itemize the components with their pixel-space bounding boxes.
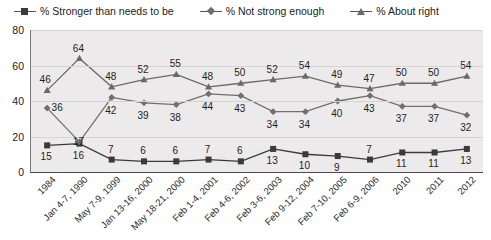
data-point-marker: [302, 108, 309, 115]
x-axis-tick: 2011: [423, 174, 445, 196]
legend-item-about-right: % About right: [350, 6, 438, 17]
y-axis: 020406080: [0, 22, 28, 172]
data-point-marker: [237, 92, 244, 99]
data-point-marker: [463, 112, 470, 119]
data-point-marker: [432, 149, 438, 155]
data-point-marker: [44, 142, 50, 148]
data-point-marker: [270, 146, 276, 152]
data-point-marker: [302, 151, 308, 157]
y-axis-tick: 20: [12, 131, 24, 143]
data-point-marker: [76, 55, 83, 61]
data-point-marker: [173, 71, 180, 77]
data-point-marker: [141, 158, 147, 164]
data-point-marker: [109, 157, 115, 163]
data-point-marker: [173, 101, 180, 108]
data-point-marker: [431, 103, 438, 110]
line-chart: 020406080 1984Jan 4-7, 1990May 7-9, 1999…: [0, 22, 491, 240]
x-axis-tick: 1984: [35, 174, 58, 197]
y-axis-tick: 80: [12, 24, 24, 36]
legend-label-not-strong: % Not strong enough: [226, 6, 325, 17]
data-point-marker: [367, 92, 374, 99]
data-point-marker: [464, 146, 470, 152]
diamond-marker-icon: [200, 6, 222, 17]
x-axis-tick: 2010: [390, 174, 413, 197]
x-axis: 1984Jan 4-7, 1990May 7-9, 1999Jan 13-16,…: [30, 174, 482, 240]
data-point-marker: [367, 157, 373, 163]
y-axis-tick: 40: [12, 95, 24, 107]
triangle-marker-icon: [350, 6, 372, 17]
data-point-marker: [463, 73, 470, 79]
gridline: [31, 30, 483, 31]
data-point-marker: [238, 158, 244, 164]
gridline: [31, 137, 483, 138]
x-axis-tick: 2012: [455, 174, 478, 197]
data-point-marker: [206, 157, 212, 163]
legend-item-not-strong: % Not strong enough: [200, 6, 325, 17]
gridline: [31, 101, 483, 102]
y-axis-tick: 0: [18, 166, 24, 178]
data-point-marker: [270, 108, 277, 115]
plot-area: [30, 30, 483, 173]
y-axis-tick: 60: [12, 60, 24, 72]
legend-item-stronger: % Stronger than needs to be: [14, 6, 174, 17]
legend-label-stronger: % Stronger than needs to be: [40, 6, 174, 17]
data-point-marker: [399, 149, 405, 155]
data-point-marker: [205, 91, 212, 98]
chart-legend: % Stronger than needs to be % Not strong…: [0, 0, 491, 22]
data-point-marker: [302, 73, 309, 79]
data-point-marker: [173, 158, 179, 164]
data-point-marker: [399, 103, 406, 110]
gridline: [31, 66, 483, 67]
legend-label-about-right: % About right: [376, 6, 438, 17]
data-point-marker: [335, 153, 341, 159]
square-marker-icon: [14, 6, 36, 17]
